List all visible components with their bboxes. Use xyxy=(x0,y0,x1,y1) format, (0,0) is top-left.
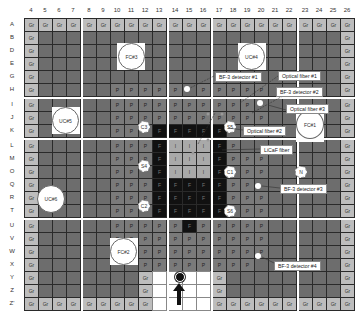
callout-bf3-detector-1: BF-3 detector #1 xyxy=(215,72,262,82)
bf3-detector-1-marker xyxy=(184,86,190,92)
callout-bf3-detector-4: BF-3 detector #4 xyxy=(274,261,321,271)
callout-bf3-detector-2: BF-3 detector #2 xyxy=(276,87,323,97)
arrow-up-icon xyxy=(173,283,185,305)
bf3-detector-4-marker xyxy=(255,253,261,259)
callout-optical-fiber-1: Optical fiber #1 xyxy=(278,71,321,81)
callout-bf3-detector-3: BF-3 detector #3 xyxy=(280,184,327,194)
bf3-detector-3-marker xyxy=(255,183,261,189)
core-layout-diagram: 4567891011121314151617181920212223242526… xyxy=(0,0,360,322)
callout-licaf-fiber: LiCaF fiber xyxy=(260,145,293,155)
callout-optical-fiber-2: Optical fiber #2 xyxy=(243,126,286,136)
neutron-source-marker xyxy=(175,272,185,282)
bf3-detector-2-marker xyxy=(257,100,263,106)
callout-optical-fiber-3: Optical fiber #3 xyxy=(286,104,329,114)
